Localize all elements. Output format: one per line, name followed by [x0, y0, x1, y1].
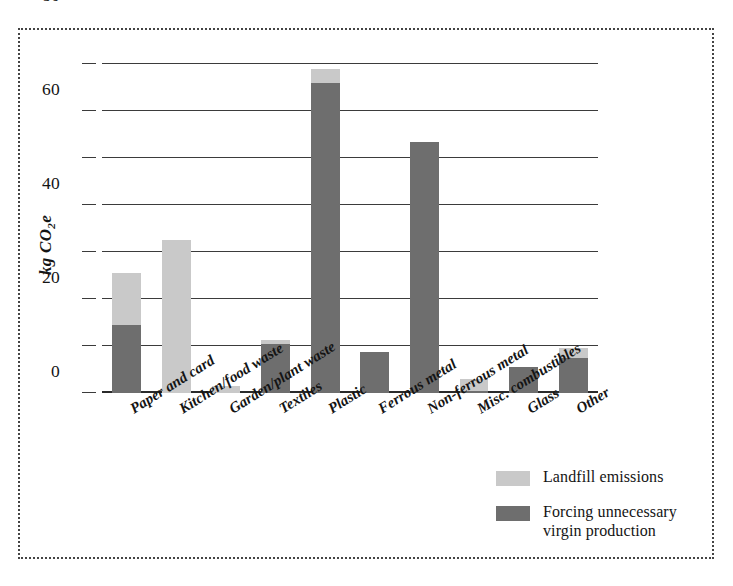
- bar-slot: [201, 64, 251, 393]
- legend-item-label: Landfill emissions: [543, 468, 663, 487]
- chart-legend: Landfill emissionsForcing unnecessaryvir…: [496, 468, 716, 557]
- chart-figure-frame: kg CO2e 020406080100120140 Paper and car…: [18, 28, 714, 559]
- y-tick-mark-140: 140: [82, 63, 96, 64]
- plot-area: 020406080100120140 Paper and cardKitchen…: [102, 64, 598, 393]
- bar-slot: [102, 64, 152, 393]
- y-tick-label: 40: [42, 173, 60, 194]
- bar-segment: [112, 325, 141, 393]
- y-tick-label: 20: [42, 267, 60, 288]
- y-tick-mark-100: 100: [82, 157, 96, 158]
- y-tick-label: 80: [42, 0, 60, 6]
- y-tick-mark-60: 60: [82, 251, 96, 252]
- y-tick-mark-120: 120: [82, 110, 96, 111]
- y-tick-label: 0: [51, 361, 60, 382]
- legend-item[interactable]: Landfill emissions: [496, 468, 716, 487]
- bar-slot: [449, 64, 499, 393]
- bar-segment: [410, 142, 439, 393]
- y-tick-label: 60: [42, 79, 60, 100]
- y-axis-title: kg CO2e: [36, 215, 57, 275]
- legend-item-label: Forcing unnecessaryvirgin production: [543, 503, 677, 541]
- bar-stack[interactable]: [410, 142, 439, 393]
- legend-swatch-virgin: [496, 506, 530, 521]
- y-tick-mark-0: 0: [82, 392, 96, 393]
- bar-slot: [152, 64, 202, 393]
- y-tick-mark-40: 40: [82, 298, 96, 299]
- bar-stack[interactable]: [112, 273, 141, 393]
- legend-swatch-landfill: [496, 471, 530, 486]
- bar-slot: [400, 64, 450, 393]
- bar-segment: [112, 273, 141, 325]
- legend-item[interactable]: Forcing unnecessaryvirgin production: [496, 503, 716, 541]
- y-tick-mark-20: 20: [82, 345, 96, 346]
- bar-slot: [350, 64, 400, 393]
- y-tick-mark-80: 80: [82, 204, 96, 205]
- bar-segment: [311, 69, 340, 83]
